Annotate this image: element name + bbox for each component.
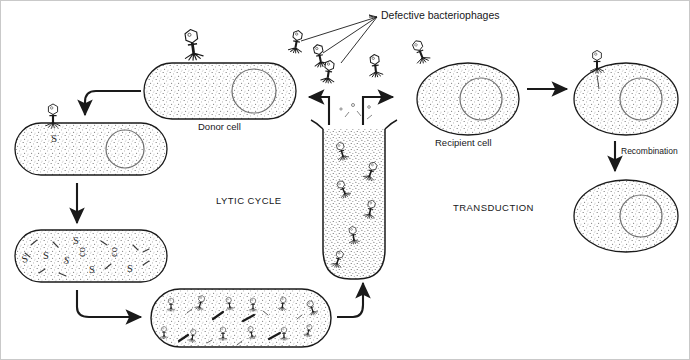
diagram-artwork: S S S S co S S co S [1, 1, 690, 360]
svg-text:S: S [51, 132, 57, 144]
phage-attached-to-recipient [590, 50, 603, 73]
defective-bacteriophages-leader-lines [301, 15, 377, 63]
infected-cell: S [15, 123, 167, 175]
phage-injecting-infected-cell [46, 104, 60, 128]
label-lytic-cycle: LYTIC CYCLE [216, 195, 282, 206]
svg-text:co: co [108, 247, 119, 257]
svg-text:co: co [76, 247, 87, 257]
svg-text:S: S [89, 264, 95, 275]
arrow-lysing-to-tube [337, 283, 363, 317]
label-donor-cell: Donor cell [198, 121, 241, 132]
phage-tube-right-inner [368, 54, 383, 78]
label-recombination: Recombination [621, 146, 678, 156]
infected-recipient-cell [574, 63, 678, 135]
lysing-cell [151, 289, 331, 347]
tube-splash [340, 104, 372, 120]
arrow-replicating-to-lysing [77, 290, 141, 317]
arrow-donor-to-infected [85, 91, 141, 115]
label-defective-bacteriophages: Defective bacteriophages [381, 9, 500, 21]
svg-text:S: S [43, 250, 49, 261]
svg-text:S: S [127, 263, 133, 274]
recipient-cell [417, 63, 519, 135]
replicating-cell: S S S co S S co S [15, 230, 167, 282]
arrow-tube-to-transduction-right [363, 97, 393, 125]
donor-cell [144, 63, 296, 119]
label-transduction: TRANSDUCTION [453, 202, 534, 213]
phage-above-donor [182, 28, 204, 61]
recombinant-cell [574, 180, 678, 252]
label-recipient-cell: Recipient cell [435, 137, 492, 148]
phage-approaching-recipient [409, 38, 430, 65]
transduction-diagram: S S S S co S S co S [0, 0, 690, 360]
phage-lysate-tube [311, 120, 397, 279]
phage-label-target-upper [288, 29, 305, 53]
svg-text:S: S [73, 235, 79, 246]
